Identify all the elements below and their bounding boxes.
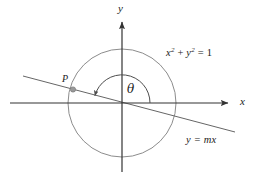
angle-theta-label: θ (127, 83, 134, 95)
y-axis-label: y (118, 3, 123, 14)
line-equation-label: y = mx (186, 135, 216, 146)
circle-equation-label: x2 + y2 = 1 (166, 48, 212, 59)
point-p-label: P (62, 74, 68, 84)
point-p-marker (70, 87, 75, 92)
circle-equation-plus: + (175, 47, 187, 58)
x-axis-label: x (240, 96, 245, 107)
geometry-figure: y x P θ x2 + y2 = 1 y = mx (0, 0, 262, 180)
circle-equation-rhs: = 1 (195, 47, 212, 58)
